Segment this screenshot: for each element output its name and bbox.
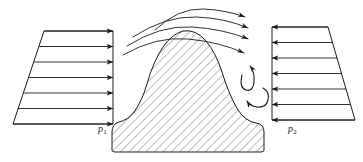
upstream-pressure-subscript: 1 xyxy=(103,128,107,136)
downstream-pressure-label: p2 xyxy=(288,124,297,134)
pressure-distribution-figure: p1 p2 xyxy=(0,0,363,162)
eddies xyxy=(241,66,268,107)
upper-eddy xyxy=(241,66,254,90)
streamline-1 xyxy=(155,9,245,30)
upstream-pressure-profile xyxy=(13,31,113,124)
upstream-pressure-label: p1 xyxy=(98,124,107,134)
downstream-pressure-profile xyxy=(272,27,355,120)
figure-canvas xyxy=(0,0,363,162)
downstream-pressure-arrows xyxy=(272,27,355,120)
lower-eddy xyxy=(247,88,268,107)
downstream-pressure-subscript: 2 xyxy=(293,128,297,136)
upstream-pressure-arrows xyxy=(13,31,113,124)
